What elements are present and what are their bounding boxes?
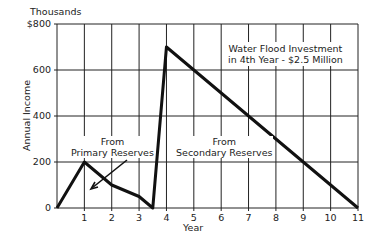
x-tick-label: 7 <box>241 212 257 223</box>
x-tick-label: 1 <box>76 212 92 223</box>
y-tick-label: 600 <box>21 64 51 75</box>
x-tick-label: 4 <box>158 212 174 223</box>
annotation-line: From <box>71 136 154 147</box>
annotation-primary: From Primary Reserves <box>70 136 155 158</box>
annotation-line: in 4th Year - $2.5 Million <box>228 54 343 65</box>
y-tick-label: $800 <box>21 18 51 29</box>
y-unit-label: Thousands <box>30 6 81 17</box>
x-tick-label: 9 <box>295 212 311 223</box>
chart-plot <box>0 0 380 241</box>
x-tick-label: 8 <box>268 212 284 223</box>
x-axis-label: Year <box>183 222 203 233</box>
annotation-line: Water Flood Investment <box>228 43 343 54</box>
y-tick-label: 200 <box>21 156 51 167</box>
x-tick-label: 11 <box>350 212 366 223</box>
income-line <box>57 47 358 208</box>
x-tick-label: 3 <box>131 212 147 223</box>
x-tick-label: 6 <box>213 212 229 223</box>
annotation-investment: Water Flood Investment in 4th Year - $2.… <box>226 42 345 66</box>
annotation-line: Primary Reserves <box>71 147 154 158</box>
y-tick-label: 0 <box>21 202 51 213</box>
annotation-line: From <box>176 136 272 147</box>
x-tick-label: 10 <box>323 212 339 223</box>
x-tick-label: 2 <box>104 212 120 223</box>
y-axis-label: Annual Income <box>21 76 32 156</box>
annotation-secondary: From Secondary Reserves <box>175 136 273 158</box>
annotation-line: Secondary Reserves <box>176 147 272 158</box>
